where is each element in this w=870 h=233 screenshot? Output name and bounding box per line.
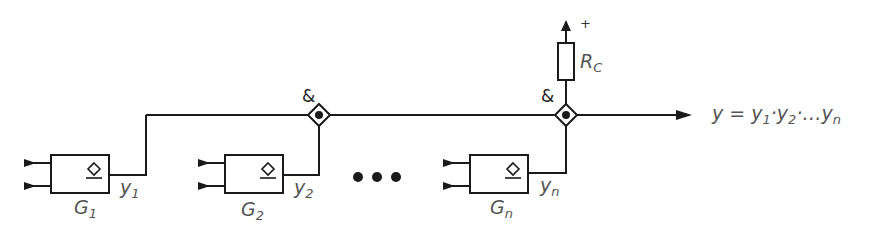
gate-label-g2: G2 bbox=[241, 200, 264, 222]
input-arrow-icon bbox=[443, 182, 455, 190]
resistor-rc bbox=[558, 43, 574, 80]
resistor-label: RC bbox=[580, 52, 602, 74]
output-arrow-icon bbox=[676, 110, 692, 120]
input-arrow-icon bbox=[198, 182, 210, 190]
input-arrow-icon bbox=[24, 159, 36, 167]
input-arrow-icon bbox=[24, 182, 36, 190]
node-dot-icon bbox=[562, 111, 570, 119]
output-label-yn: yn bbox=[540, 176, 560, 198]
wired-and-diagram: G1 y1 G2 y2 Gn yn & & RC + y = y1·y2·…yn bbox=[0, 0, 870, 233]
node-dot-icon bbox=[315, 111, 323, 119]
ellipsis-dot bbox=[391, 172, 401, 182]
output-label-y1: y1 bbox=[120, 178, 140, 200]
ellipsis-dot bbox=[353, 172, 363, 182]
supply-plus-label: + bbox=[580, 17, 591, 30]
supply-arrow-icon bbox=[561, 20, 571, 31]
input-arrow-icon bbox=[443, 159, 455, 167]
and-label-2: & bbox=[541, 88, 554, 105]
gate-label-gn: Gn bbox=[490, 198, 513, 220]
input-arrow-icon bbox=[198, 159, 210, 167]
ellipsis-dot bbox=[372, 172, 382, 182]
output-expression: y = y1·y2·…yn bbox=[712, 104, 841, 126]
gate-g1-box bbox=[51, 155, 109, 193]
gate-gn-box bbox=[470, 155, 528, 193]
gate-g2-box bbox=[225, 155, 283, 193]
output-label-y2: y2 bbox=[294, 178, 314, 200]
and-label-1: & bbox=[302, 88, 315, 105]
gate-label-g1: G1 bbox=[74, 198, 97, 220]
